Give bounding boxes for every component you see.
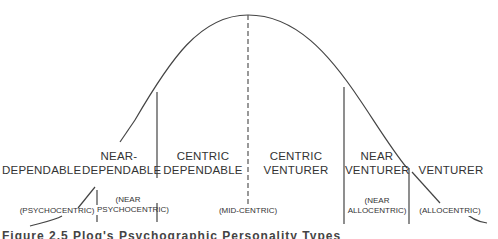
bell-curve-left-tail — [30, 216, 62, 226]
label-near-dependable: NEAR- DEPENDABLE — [82, 149, 156, 177]
label-centric-dependable: CENTRIC DEPENDABLE — [160, 149, 246, 177]
bell-curve-diagram — [0, 0, 498, 239]
label-centric-venturer: CENTRIC VENTURER — [250, 149, 342, 177]
sublabel-allocentric: (ALLOCENTRIC) — [414, 206, 486, 216]
sublabel-mid-centric-line: (MID-CENTRIC) — [210, 206, 286, 216]
bell-curve-left-lower — [78, 187, 95, 208]
label-near-dependable-line1: NEAR- — [82, 149, 156, 163]
sublabel-mid-centric: (MID-CENTRIC) — [210, 206, 286, 216]
figure-caption: Figure 2.5 Plog's Psychographic Personal… — [2, 229, 341, 239]
label-near-venturer-line1: NEAR — [345, 149, 409, 163]
label-centric-dependable-line1: CENTRIC — [160, 149, 246, 163]
label-venturer: VENTURER — [413, 163, 489, 177]
sublabel-near-allocentric-line1: (NEAR — [346, 196, 408, 206]
label-dependable: DEPENDABLE — [2, 163, 78, 177]
sublabel-psychocentric-line: (PSYCHOCENTRIC) — [18, 206, 96, 216]
sublabel-near-allocentric: (NEAR ALLOCENTRIC) — [346, 196, 408, 216]
sublabel-psychocentric: (PSYCHOCENTRIC) — [18, 206, 96, 216]
label-centric-dependable-line2: DEPENDABLE — [160, 163, 246, 177]
label-dependable-line: DEPENDABLE — [2, 163, 78, 177]
label-near-dependable-line2: DEPENDABLE — [82, 163, 156, 177]
sublabel-allocentric-line: (ALLOCENTRIC) — [414, 206, 486, 216]
label-centric-venturer-line1: CENTRIC — [250, 149, 342, 163]
label-centric-venturer-line2: VENTURER — [250, 163, 342, 177]
bell-curve-left-segment — [120, 120, 135, 142]
sublabel-near-psychocentric-line1: (NEAR — [97, 195, 159, 205]
sublabel-near-psychocentric: (NEAR PSYCHOCENTRIC) — [97, 195, 159, 215]
sublabel-near-psychocentric-line2: PSYCHOCENTRIC) — [97, 205, 159, 215]
sublabel-near-allocentric-line2: ALLOCENTRIC) — [346, 206, 408, 216]
label-venturer-line: VENTURER — [413, 163, 489, 177]
label-near-venturer-line2: VENTURER — [345, 163, 409, 177]
label-near-venturer: NEAR VENTURER — [345, 149, 409, 177]
bell-curve — [135, 15, 407, 168]
